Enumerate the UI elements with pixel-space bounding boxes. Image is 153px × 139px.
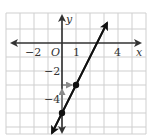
grid [6,13,146,134]
coordinate-plane: y x O −2 1 4 −2 −4 [0,0,153,139]
line-y-equals-2x-minus-5 [52,23,107,133]
x-tick-4: 4 [114,46,121,59]
point-0-neg5 [59,110,65,116]
y-tick-neg2: −2 [44,65,60,78]
point-1-neg3 [73,82,79,88]
origin-label: O [51,46,60,59]
x-axis-label: x [136,46,143,59]
x-tick-1: 1 [73,46,80,59]
y-tick-neg4: −4 [44,93,60,106]
x-tick-neg2: −2 [25,46,41,59]
y-axis-label: y [65,13,73,26]
